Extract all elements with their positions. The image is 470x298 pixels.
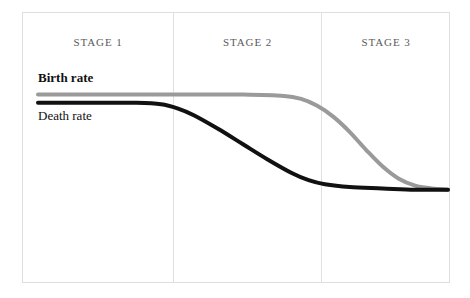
stage-label-1: STAGE 1 <box>23 36 173 48</box>
chart-frame <box>22 12 450 283</box>
birth-rate-label: Birth rate <box>38 70 93 86</box>
demographic-transition-diagram: STAGE 1 STAGE 2 STAGE 3 Birth rate Death… <box>0 0 470 298</box>
stage-divider-2 <box>321 12 322 283</box>
stage-label-3: STAGE 3 <box>322 36 450 48</box>
death-rate-label: Death rate <box>38 108 92 124</box>
stage-divider-1 <box>173 12 174 283</box>
stage-label-2: STAGE 2 <box>174 36 321 48</box>
